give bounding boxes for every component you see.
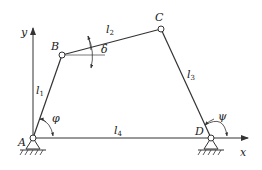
label-l4: l4 [114,124,123,138]
joint-d [208,135,214,141]
label-psi: ψ [218,110,227,123]
joint-c [158,26,164,32]
label-point-a: A [17,136,26,149]
label-l3: l3 [187,68,195,82]
delta-arc [88,36,92,68]
four-bar-linkage-diagram: A B C D y x l1 l2 l3 l4 φ ψ δ [0,0,262,170]
link-l3 [161,29,211,138]
label-l2: l2 [106,23,114,37]
psi-arc [205,121,227,136]
joint-b [59,52,65,58]
label-delta: δ [101,43,108,56]
label-point-b: B [50,40,59,53]
label-y-axis: y [20,26,28,39]
label-point-c: C [155,11,164,24]
label-point-d: D [194,125,204,138]
joint-a [30,135,36,141]
label-l1: l1 [36,84,44,98]
label-x-axis: x [240,146,247,159]
label-phi: φ [52,112,60,125]
